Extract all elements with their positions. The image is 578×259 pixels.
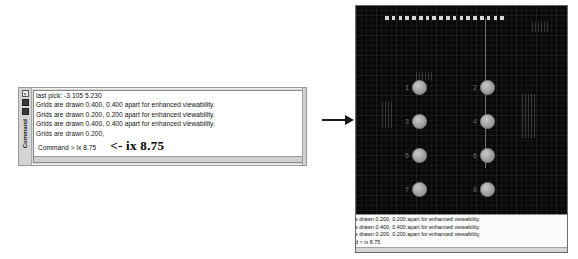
circle-shape[interactable] [480,148,495,163]
marker-square [412,16,416,20]
circle-shape[interactable] [412,182,427,197]
circle-label: 2 [470,84,477,91]
close-icon[interactable]: × [22,90,29,97]
marker-square [392,16,396,20]
marker-row [385,16,504,20]
cad-command-strip[interactable]: s drawn 0.200, 0.200 apart for enhanced … [356,214,567,252]
marker-square [385,16,389,20]
command-panel-label: Command [22,119,28,148]
circle-label: 8 [470,186,477,193]
command-line-grid-4: Grids are drawn 0.200, [34,129,302,138]
hatch-region-middle [416,72,432,80]
marker-square [399,16,403,20]
circle-item-2[interactable]: 2 [470,80,495,95]
command-line-last-pick: last pick: -3.105 5.230 [34,91,302,100]
circle-item-8[interactable]: 8 [470,182,495,197]
marker-square [426,16,430,20]
cad-command-scrollbar[interactable] [356,247,567,252]
pin-icon[interactable] [22,99,29,106]
marker-square [453,16,457,20]
menu-icon[interactable] [22,108,29,115]
marker-square [466,16,470,20]
circle-label: 6 [470,152,477,159]
circle-shape[interactable] [412,148,427,163]
marker-square [460,16,464,20]
circle-shape[interactable] [480,182,495,197]
cad-application-window[interactable]: 12345678 s drawn 0.200, 0.200 apart for … [355,5,568,253]
circle-label: 5 [402,152,409,159]
flow-arrow-icon [322,112,354,128]
hatch-region-corner [532,22,548,32]
hatch-region-left [382,102,392,128]
marker-square [500,16,504,20]
cad-command-line-2: s drawn 0.400, 0.400 apart for enhanced … [356,224,567,232]
circle-shape[interactable] [412,80,427,95]
marker-square [439,16,443,20]
command-window-right-edge [302,88,306,165]
circle-item-5[interactable]: 5 [402,148,427,163]
cad-command-line-3: s drawn 0.200, 0.200 apart for enhanced … [356,231,567,239]
marker-square [405,16,409,20]
circle-grid: 12345678 [396,80,526,216]
command-scrollbar[interactable] [34,156,302,162]
command-line-grid-1: Grids are drawn 0.400, 0.400 apart for e… [34,100,302,109]
marker-square [494,16,498,20]
circle-shape[interactable] [412,114,427,129]
circle-row: 34 [396,114,526,148]
command-line-grid-3: Grids are drawn 0.400, 0.400 apart for e… [34,119,302,128]
arrow-head [345,115,354,125]
command-history-window[interactable]: × Command last pick: -3.105 5.230 Grids … [18,87,307,166]
circle-item-1[interactable]: 1 [402,80,427,95]
marker-square [432,16,436,20]
circle-label: 7 [402,186,409,193]
arrow-shaft [322,119,345,120]
marker-square [487,16,491,20]
circle-label: 3 [402,118,409,125]
command-prompt-row[interactable]: Command > ix 8.75 <- ix 8.75 [34,138,302,154]
command-output-area[interactable]: last pick: -3.105 5.230 Grids are drawn … [33,90,302,163]
circle-shape[interactable] [480,114,495,129]
command-window-side-strip[interactable]: × Command [19,88,32,165]
circle-row: 12 [396,80,526,114]
circle-row: 78 [396,182,526,216]
circle-item-4[interactable]: 4 [470,114,495,129]
circle-row: 56 [396,148,526,182]
circle-item-3[interactable]: 3 [402,114,427,129]
circle-item-7[interactable]: 7 [402,182,427,197]
circle-label: 4 [470,118,477,125]
cad-command-line-4: d > ix 8.75 [356,239,567,247]
circle-item-6[interactable]: 6 [470,148,495,163]
command-line-grid-2: Grids are drawn 0.200, 0.200 apart for e… [34,110,302,119]
cad-command-line-1: s drawn 0.200, 0.200 apart for enhanced … [356,216,567,224]
cad-drawing-viewport[interactable]: 12345678 [356,6,567,216]
marker-square [480,16,484,20]
marker-square [446,16,450,20]
marker-square [473,16,477,20]
circle-label: 1 [402,84,409,91]
marker-square [419,16,423,20]
command-prompt-text: Command > ix 8.75 [36,143,96,152]
circle-shape[interactable] [480,80,495,95]
annotation-ix-callout: <- ix 8.75 [110,138,164,154]
